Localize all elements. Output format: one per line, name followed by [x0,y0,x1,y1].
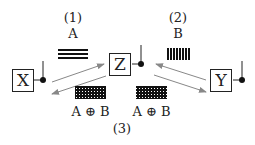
step-2-message: B [163,27,193,41]
network-coding-diagram: X Z Y (1) A (2) B A ⊕ B A ⊕ B (3) [0,0,255,145]
step-2-number: (2) [163,11,193,25]
step-3-number: (3) [107,122,137,136]
node-x: X [12,69,34,92]
antenna-icon-x [34,61,46,83]
packet-xor-right-icon [136,86,167,99]
step-3-message-left: A ⊕ B [68,105,113,119]
packet-b-icon [167,48,190,60]
antenna-icon-y [233,61,245,83]
step-1-number: (1) [58,11,88,25]
node-y: Y [210,69,232,92]
antenna-icon-z [132,45,144,67]
packet-xor-left-icon [75,86,106,99]
packet-a-icon [58,49,88,59]
step-1-message: A [58,27,88,41]
step-3-message-right: A ⊕ B [129,105,174,119]
node-z: Z [109,53,131,76]
